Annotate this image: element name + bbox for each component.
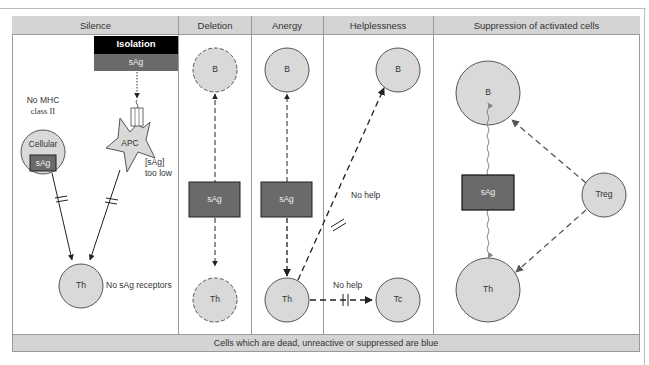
diagram-graphics [0,0,649,365]
cellular-sag-label: sAg [30,158,56,169]
th-label-deletion: Th [200,294,230,305]
cellular-label: Cellular [21,139,65,150]
b-label-anergy: B [272,64,302,75]
apc-label: APC [115,138,145,149]
sag-low-line2: too low [145,168,172,179]
b-label-suppression: B [473,87,503,98]
th-label-suppression: Th [473,284,503,295]
no-help-b-label: No help [351,190,380,201]
no-receptors-label: No sAg receptors [106,280,172,291]
sag-label-suppression: sAg [462,187,514,198]
sag-label-silence: sAg [94,57,178,68]
b-label-helplessness: B [383,64,413,75]
no-help-tc-label: No help [333,280,362,291]
th-label-anergy: Th [272,294,302,305]
no-mhc-line2: class II [18,106,68,117]
treg-label: Treg [586,189,622,200]
sag-low-line1: [sAg] [145,157,164,168]
footer-note: Cells which are dead, unreactive or supp… [12,334,640,352]
b-label-deletion: B [200,64,230,75]
sag-label-anergy: sAg [261,194,312,205]
th-label-silence: Th [66,280,96,291]
tc-label: Tc [383,294,413,305]
isolation-label: Isolation [94,38,178,49]
no-mhc-line1: No MHC [18,95,68,106]
sag-label-deletion: sAg [189,194,240,205]
